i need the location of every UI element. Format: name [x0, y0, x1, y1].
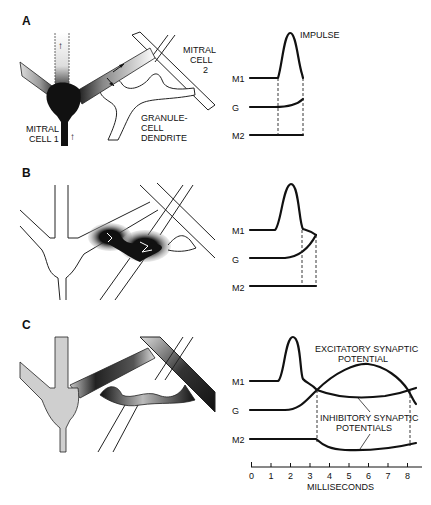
- trace-label-g: G: [232, 103, 239, 113]
- trace-label-g: G: [232, 255, 239, 265]
- panel-letter-a: A: [22, 14, 31, 28]
- label-inhibitory-synaptic-potentials: INHIBITORY SYNAPTIC: [320, 413, 419, 423]
- panel-a: A ↑ ↑ MITRAL CELL: [20, 14, 340, 146]
- mitral-cell-1-soma: [20, 337, 79, 452]
- axis-ticks: [252, 462, 408, 467]
- panel-b: B M1 G M2: [20, 166, 316, 300]
- svg-text:8: 8: [405, 471, 410, 481]
- panel-c-traces: M1 G M2 EXCITATORY SYNAPTIC POTENTIAL IN…: [232, 337, 419, 450]
- trace-m1: [250, 33, 303, 78]
- trace-label-m2: M2: [232, 435, 245, 445]
- trace-g: [250, 99, 303, 107]
- granule-cell-spine: [100, 385, 195, 406]
- svg-text:2: 2: [203, 65, 208, 75]
- trace-g: [250, 235, 316, 258]
- trace-m1: [250, 184, 316, 235]
- svg-text:POTENTIALS: POTENTIALS: [336, 423, 392, 433]
- panel-c-anatomy: [20, 337, 215, 452]
- svg-text:5: 5: [346, 471, 351, 481]
- svg-text:CELL: CELL: [190, 55, 213, 65]
- arrow-up-icon: ↑: [58, 40, 63, 51]
- panel-c: C M1 G M2: [20, 318, 422, 492]
- label-excitatory-synaptic-potential: EXCITATORY SYNAPTIC: [315, 344, 419, 354]
- panel-letter-c: C: [22, 318, 31, 332]
- svg-text:CELL 1: CELL 1: [29, 134, 59, 144]
- label-impulse: IMPULSE: [300, 30, 340, 40]
- svg-text:3: 3: [307, 471, 312, 481]
- axis-label: MILLISECONDS: [307, 482, 374, 492]
- trace-label-m1: M1: [232, 226, 245, 236]
- synapse-figure: A ↑ ↑ MITRAL CELL: [0, 0, 431, 505]
- time-axis: 0 1 2 3 4 5 6 7 8 MILLISECONDS: [249, 462, 422, 492]
- trace-g: [250, 364, 416, 410]
- svg-text:1: 1: [268, 471, 273, 481]
- svg-text:7: 7: [385, 471, 390, 481]
- arrow-up-icon: ↑: [70, 131, 75, 142]
- svg-text:POTENTIAL: POTENTIAL: [338, 354, 388, 364]
- axis-tick-labels: 0 1 2 3 4 5 6 7 8: [249, 471, 410, 481]
- svg-text:DENDRITE: DENDRITE: [141, 133, 187, 143]
- label-mitral-cell-1: MITRAL: [26, 124, 59, 134]
- label-mitral-cell-2: MITRAL: [183, 45, 216, 55]
- trace-label-m2: M2: [232, 131, 245, 141]
- svg-text:0: 0: [249, 471, 254, 481]
- svg-text:6: 6: [366, 471, 371, 481]
- panel-b-traces: M1 G M2: [232, 184, 316, 293]
- panel-b-anatomy: [20, 183, 215, 300]
- trace-label-m1: M1: [232, 74, 245, 84]
- panel-a-traces: M1 G M2 IMPULSE: [232, 30, 340, 141]
- label-granule-cell-dendrite: GRANULE-: [141, 113, 188, 123]
- svg-text:2: 2: [288, 471, 293, 481]
- trace-label-m1: M1: [232, 377, 245, 387]
- trace-m2: [250, 439, 416, 450]
- trace-label-g: G: [232, 406, 239, 416]
- svg-text:CELL: CELL: [141, 123, 164, 133]
- svg-text:4: 4: [327, 471, 332, 481]
- trace-label-m2: M2: [232, 283, 245, 293]
- panel-letter-b: B: [22, 166, 31, 180]
